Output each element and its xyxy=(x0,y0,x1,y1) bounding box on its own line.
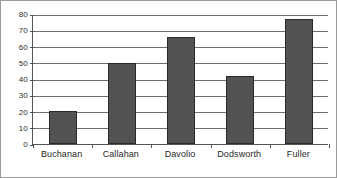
bar-chart-figure: 01020304050607080 BuchananCallahanDavoli… xyxy=(0,0,337,178)
x-axis-category-label: Fuller xyxy=(287,149,310,159)
y-axis-tick-label: 30 xyxy=(19,92,28,100)
y-tick-mark xyxy=(30,31,34,32)
x-axis-category-label: Dodsworth xyxy=(217,149,261,159)
y-axis-tick-label: 10 xyxy=(19,125,28,133)
x-axis-category-label: Buchanan xyxy=(41,149,82,159)
y-axis-tick-label: 40 xyxy=(19,76,28,84)
x-tick-mark xyxy=(270,144,271,148)
y-tick-mark xyxy=(30,80,34,81)
x-axis-category-label: Davolio xyxy=(165,149,196,159)
bar xyxy=(226,76,254,144)
x-tick-mark xyxy=(151,144,152,148)
y-tick-mark xyxy=(30,47,34,48)
y-axis-tick-label: 50 xyxy=(19,60,28,68)
y-tick-mark xyxy=(30,112,34,113)
y-axis-tick-label: 80 xyxy=(19,11,28,19)
bar xyxy=(49,111,77,144)
x-axis-category-label: Callahan xyxy=(103,149,139,159)
y-axis-tick-label: 0 xyxy=(23,141,28,149)
y-tick-mark xyxy=(30,128,34,129)
y-axis-tick-label: 70 xyxy=(19,27,28,35)
x-tick-mark xyxy=(33,144,34,148)
bar xyxy=(108,63,136,144)
x-tick-mark xyxy=(92,144,93,148)
y-axis-tick-label: 20 xyxy=(19,109,28,117)
bar xyxy=(285,19,313,144)
y-tick-mark xyxy=(30,63,34,64)
x-tick-mark xyxy=(329,144,330,148)
y-tick-mark xyxy=(30,15,34,16)
plot-area: 01020304050607080 xyxy=(32,15,328,145)
x-tick-mark xyxy=(211,144,212,148)
y-tick-mark xyxy=(30,96,34,97)
y-axis-tick-label: 60 xyxy=(19,44,28,52)
y-gridline xyxy=(33,15,328,16)
y-gridline xyxy=(33,31,328,32)
bar xyxy=(167,37,195,144)
